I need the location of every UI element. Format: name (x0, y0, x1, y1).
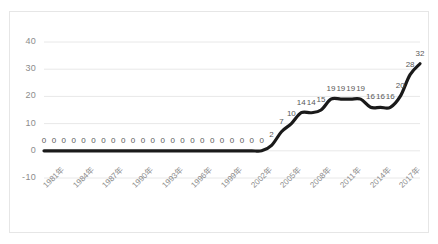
data-point-label: 16 (376, 92, 385, 101)
data-point-label: 0 (170, 136, 174, 145)
y-axis-tick-label: 0 (14, 145, 36, 155)
data-point-label: 19 (356, 84, 365, 93)
data-point-label: 0 (210, 136, 214, 145)
data-point-label: 0 (161, 136, 165, 145)
data-point-label: 20 (396, 81, 405, 90)
data-point-label: 14 (297, 98, 306, 107)
data-point-label: 19 (336, 84, 345, 93)
data-point-label: 0 (259, 136, 263, 145)
data-point-label: 0 (52, 136, 56, 145)
data-point-label: 0 (151, 136, 155, 145)
data-point-label: 28 (406, 60, 415, 69)
y-axis-tick-label: 30 (14, 63, 36, 73)
y-axis-tick-label: 40 (14, 36, 36, 46)
data-point-label: 0 (91, 136, 95, 145)
data-point-label: 0 (131, 136, 135, 145)
data-point-label: 0 (71, 136, 75, 145)
y-axis-tick-label: 20 (14, 90, 36, 100)
data-point-label: 16 (386, 92, 395, 101)
y-axis-tick-label: 10 (14, 118, 36, 128)
data-point-label: 19 (326, 84, 335, 93)
data-point-label: 14 (307, 98, 316, 107)
data-point-label: 10 (287, 109, 296, 118)
data-point-label: 15 (317, 95, 326, 104)
plot-area (10, 12, 428, 232)
data-point-label: 0 (180, 136, 184, 145)
data-point-label: 0 (220, 136, 224, 145)
data-point-label: 0 (111, 136, 115, 145)
chart-canvas (10, 12, 430, 234)
data-point-label: 0 (81, 136, 85, 145)
data-point-label: 19 (346, 84, 355, 93)
data-point-label: 0 (200, 136, 204, 145)
data-point-label: 0 (190, 136, 194, 145)
data-point-label: 0 (250, 136, 254, 145)
y-axis-tick-label: -10 (14, 172, 36, 182)
data-point-label: 0 (62, 136, 66, 145)
data-point-label: 0 (230, 136, 234, 145)
data-point-label: 0 (101, 136, 105, 145)
data-point-label: 32 (416, 49, 425, 58)
data-point-label: 16 (366, 92, 375, 101)
data-point-label: 0 (121, 136, 125, 145)
data-point-label: 2 (269, 130, 273, 139)
data-point-label: 0 (42, 136, 46, 145)
data-point-label: 0 (240, 136, 244, 145)
data-point-label: 7 (279, 117, 283, 126)
data-point-label: 0 (141, 136, 145, 145)
chart-container: -10010203040 1981年1984年1987年1990年1993年19… (9, 11, 429, 233)
